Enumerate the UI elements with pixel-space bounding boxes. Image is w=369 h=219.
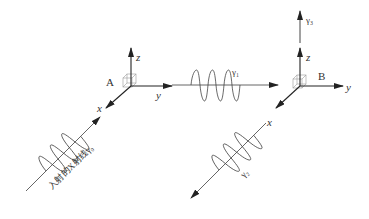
frame-b: γ₃ z y B [276, 11, 351, 108]
frame-a: z y x A [96, 48, 172, 114]
axis-y-label-b: y [345, 81, 351, 93]
axis-z-label-a: z [135, 51, 141, 63]
axis-x-label-b: x [266, 116, 272, 128]
gamma1-label: γ₁ [231, 67, 239, 77]
axis-x-b [276, 86, 300, 108]
gamma3-label: γ₃ [305, 15, 313, 25]
axis-x-label-a: x [96, 102, 102, 114]
axis-z-label-b: z [305, 51, 311, 63]
axis-y-label-a: y [155, 89, 161, 101]
gamma2-ray: x γ₂ [191, 116, 272, 198]
cube-a-icon [123, 74, 136, 87]
point-a-label: A [106, 76, 114, 88]
gamma1-ray: γ₁ [172, 67, 278, 101]
compton-scattering-diagram: z y x A γ₁ γ₃ z y B 入射的X射线γ₀ [0, 0, 369, 219]
axis-x-a [106, 86, 131, 108]
point-b-label: B [318, 70, 325, 82]
incident-ray-label: 入射的X射线γ₀ [46, 142, 95, 191]
gamma2-label: γ₂ [238, 167, 251, 180]
incident-ray: 入射的X射线γ₀ [26, 117, 100, 191]
